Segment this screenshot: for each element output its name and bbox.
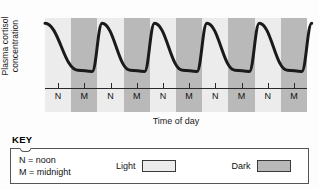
tick-label: M — [133, 91, 141, 101]
tick-6 — [202, 83, 228, 88]
key-swatch-label: Dark — [232, 161, 251, 171]
tick-label: N — [212, 91, 219, 101]
tick-label: N — [160, 91, 167, 101]
tick-label: M — [238, 91, 246, 101]
key-swatch-label: Light — [116, 161, 136, 171]
key-definition-1: M = midnight — [19, 166, 71, 178]
tick-label: N — [264, 91, 271, 101]
key-box: N = noonM = midnight LightDark — [10, 148, 309, 184]
key-definitions: N = noonM = midnight — [19, 154, 71, 178]
tick-mark — [215, 83, 216, 88]
tick-mark — [189, 83, 190, 88]
key-swatch-list: LightDark — [116, 149, 306, 183]
key-box-notch — [20, 148, 31, 152]
tick-7 — [228, 83, 254, 88]
tick-label-cell-2: N — [97, 89, 123, 112]
tick-mark — [268, 83, 269, 88]
tick-3 — [124, 83, 150, 88]
tick-mark — [137, 83, 138, 88]
tick-label: M — [185, 91, 193, 101]
tick-label: N — [55, 91, 62, 101]
cortisol-curve — [45, 18, 307, 88]
tick-mark — [163, 83, 164, 88]
plot-area — [45, 18, 307, 88]
tick-mark — [242, 83, 243, 88]
tick-1 — [71, 83, 97, 88]
tick-label-cell-3: M — [124, 89, 150, 112]
key-title: KEY — [12, 134, 32, 145]
tick-0 — [45, 83, 71, 88]
key-definition-0: N = noon — [19, 154, 71, 166]
tick-mark — [294, 83, 295, 88]
tick-label-cell-7: M — [228, 89, 254, 112]
tick-label-cell-4: N — [150, 89, 176, 112]
key-swatch-chip — [257, 160, 291, 172]
figure-root: Plasma cortisol concentration NMNMNMNMNM… — [0, 0, 319, 190]
tick-8 — [255, 83, 281, 88]
tick-label-cell-0: N — [45, 89, 71, 112]
tick-4 — [150, 83, 176, 88]
key-swatch-chip — [142, 160, 176, 172]
tick-label-cell-5: M — [176, 89, 202, 112]
key-swatch-dark: Dark — [232, 160, 291, 172]
tick-label: N — [107, 91, 114, 101]
key-swatch-light: Light — [116, 160, 176, 172]
tick-2 — [97, 83, 123, 88]
y-axis-label: Plasma cortisol concentration — [0, 2, 20, 90]
x-axis-ticks — [45, 83, 307, 88]
tick-5 — [176, 83, 202, 88]
tick-label: M — [290, 91, 298, 101]
tick-mark — [84, 83, 85, 88]
tick-label: M — [81, 91, 89, 101]
tick-label-cell-9: M — [281, 89, 307, 112]
tick-mark — [111, 83, 112, 88]
x-axis-label: Time of day — [45, 116, 307, 126]
tick-9 — [281, 83, 307, 88]
cortisol-circadian-chart: Plasma cortisol concentration NMNMNMNMNM… — [0, 0, 319, 134]
tick-label-cell-8: N — [255, 89, 281, 112]
x-axis-tick-labels: NMNMNMNMNM — [45, 89, 307, 112]
tick-label-cell-1: M — [71, 89, 97, 112]
tick-mark — [58, 83, 59, 88]
tick-label-cell-6: N — [202, 89, 228, 112]
